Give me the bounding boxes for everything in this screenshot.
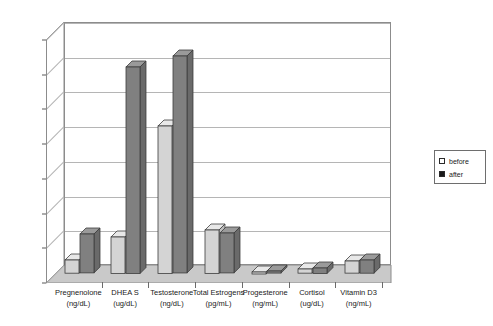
category-name: Vitamin D3 — [340, 288, 377, 299]
bar-dhea-s-after — [126, 61, 148, 276]
x-axis-category-label: Cortisol(ug/dL) — [299, 288, 324, 309]
category-unit: (ug/dL) — [299, 299, 324, 310]
bar-cortisol-after — [313, 262, 335, 276]
x-axis-category-label: DHEA S(ug/dL) — [111, 288, 139, 309]
plot-area — [46, 22, 391, 282]
x-axis-separator — [382, 282, 383, 288]
x-axis-category-label: Pregnenolone(ng/dL) — [55, 288, 102, 309]
category-unit: (ng/mL) — [340, 299, 377, 310]
x-axis-category-label: Total Estrogens(pg/mL) — [193, 288, 245, 309]
x-axis-category-label: Testosterone(ng/dL) — [150, 288, 193, 309]
x-axis-category-label: Progesterone(ng/mL) — [243, 288, 288, 309]
category-name: Pregnenolone — [55, 288, 102, 299]
bars-layer — [46, 22, 392, 283]
light-square-icon — [439, 158, 445, 164]
legend-label: before — [449, 158, 469, 165]
bar-chart: 0100200300400500600700 Pregnenolone(ng/d… — [0, 0, 493, 326]
bar-vitamin-d3-after — [360, 254, 382, 275]
bar-progesterone-after — [267, 265, 289, 275]
legend-item-before[interactable]: before — [439, 156, 469, 166]
category-name: DHEA S — [111, 288, 139, 299]
category-name: Total Estrogens — [193, 288, 245, 299]
bar-testosterone-after — [173, 50, 195, 275]
category-unit: (ng/dL) — [55, 299, 102, 310]
x-axis-separator — [148, 282, 149, 288]
category-name: Testosterone — [150, 288, 193, 299]
x-axis-category-label: Vitamin D3(ng/mL) — [340, 288, 377, 309]
y-axis-labels: 0100200300400500600700 — [0, 0, 40, 326]
category-unit: (ng/mL) — [243, 299, 288, 310]
legend-label: after — [449, 171, 463, 178]
category-unit: (ng/dL) — [150, 299, 193, 310]
x-axis-separator — [335, 282, 336, 288]
dark-square-icon — [439, 171, 445, 177]
x-axis-labels: Pregnenolone(ng/dL)DHEA S(ug/dL)Testoste… — [0, 286, 493, 326]
chart-legend: beforeafter — [434, 150, 486, 184]
category-name: Cortisol — [299, 288, 324, 299]
category-unit: (pg/mL) — [193, 299, 245, 310]
legend-item-after[interactable]: after — [439, 169, 463, 179]
x-axis-separator — [289, 282, 290, 288]
bar-total-estrogens-after — [220, 227, 242, 275]
category-unit: (ug/dL) — [111, 299, 139, 310]
bar-pregnenolone-after — [80, 228, 102, 275]
x-axis-separator — [102, 282, 103, 288]
category-name: Progesterone — [243, 288, 288, 299]
